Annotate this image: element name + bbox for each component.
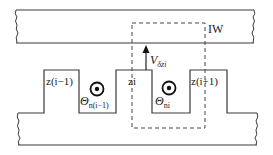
magnetic-circuit-diagram: IW Vδzi z(i−1) zi z(i+1) Θn(i−1) Θni bbox=[0, 0, 273, 155]
tooth-label-center: zi bbox=[128, 75, 136, 87]
tooth-label-right: z(i+1) bbox=[191, 75, 218, 88]
diagram-canvas: IW Vδzi z(i−1) zi z(i+1) Θn(i−1) Θni bbox=[0, 0, 273, 155]
mmf-label-right: Θni bbox=[155, 94, 171, 110]
current-out-of-page-icon-left bbox=[91, 83, 104, 96]
velocity-label: Vδzi bbox=[150, 53, 166, 69]
rotor-label: IW bbox=[208, 22, 224, 36]
mmf-label-left: Θn(i−1) bbox=[80, 94, 109, 110]
current-out-of-page-icon-right bbox=[163, 82, 176, 95]
tooth-label-left: z(i−1) bbox=[46, 75, 73, 88]
velocity-arrow-icon bbox=[143, 45, 150, 70]
